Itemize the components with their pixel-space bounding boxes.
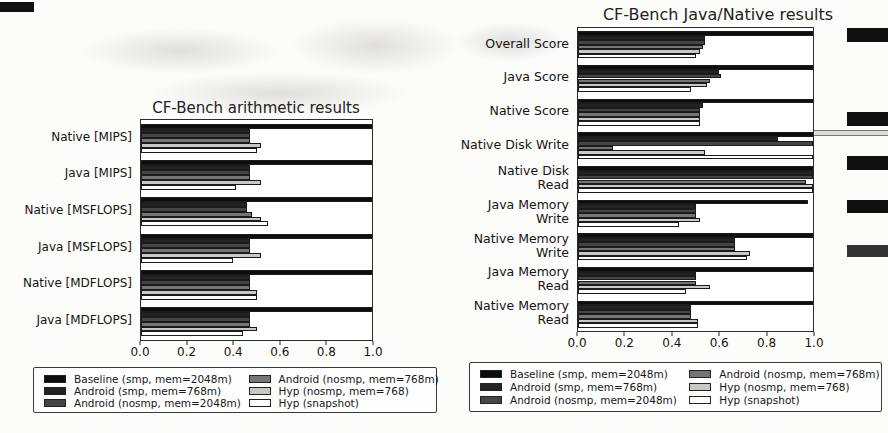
legend-item: Android (smp, mem=768m) <box>44 385 249 397</box>
category-label: Native Disk Write <box>440 128 573 162</box>
category-axis: Overall ScoreJava ScoreNative ScoreNativ… <box>440 27 573 332</box>
category-label: Native Score <box>440 94 573 128</box>
category-label: Java [MIPS] <box>0 156 136 193</box>
bar <box>141 221 268 226</box>
scanned-page: { "legend": { "items": [ {"label": "Base… <box>0 0 888 433</box>
category-label: Native [MIPS] <box>0 119 136 156</box>
legend: Baseline (smp, mem=2048m)Android (smp, m… <box>33 367 437 413</box>
legend-label: Baseline (smp, mem=2048m) <box>74 373 232 385</box>
category-label: Native Memory Read <box>440 296 573 330</box>
legend-label: Android (nosmp, mem=768m) <box>719 368 879 380</box>
legend-item: Android (nosmp, mem=768m) <box>689 368 875 381</box>
legend-item: Hyp (nosmp, mem=768) <box>689 381 875 394</box>
x-tick-label: 1.0 <box>363 345 382 359</box>
x-tick-label: 0.4 <box>662 336 681 350</box>
legend-item: Hyp (nosmp, mem=768) <box>249 385 430 397</box>
legend-item: Baseline (smp, mem=2048m) <box>44 373 249 385</box>
bar <box>141 185 236 190</box>
bar <box>578 289 686 293</box>
legend-label: Android (nosmp, mem=2048m) <box>74 397 241 409</box>
legend-swatch <box>480 383 502 391</box>
x-tick-label: 0.0 <box>130 345 149 359</box>
scan-artifact <box>847 112 888 126</box>
category-label: Java Memory Write <box>440 195 573 229</box>
legend-label: Android (smp, mem=768m) <box>510 381 657 393</box>
category-label: Java Score <box>440 61 573 95</box>
scan-artifact <box>847 156 888 170</box>
bar <box>578 256 747 260</box>
bar <box>578 141 813 145</box>
legend-swatch <box>249 375 271 383</box>
legend-item: Baseline (smp, mem=2048m) <box>480 368 689 381</box>
legend-item: Android (nosmp, mem=2048m) <box>44 397 249 409</box>
legend-label: Android (smp, mem=768m) <box>74 385 221 397</box>
bar <box>578 222 679 226</box>
bar <box>578 323 698 327</box>
scan-artifact <box>847 200 888 213</box>
legend: Baseline (smp, mem=2048m)Android (smp, m… <box>469 362 882 412</box>
legend-item: Android (smp, mem=768m) <box>480 381 689 394</box>
legend-swatch <box>689 370 711 378</box>
legend-swatch <box>480 396 502 404</box>
category-label: Java [MDFLOPS] <box>0 302 136 339</box>
legend-swatch <box>689 396 711 404</box>
category-label: Native Disk Read <box>440 162 573 196</box>
legend-swatch <box>44 399 66 407</box>
bar <box>141 148 257 153</box>
category-label: Java Memory Read <box>440 263 573 297</box>
scan-artifact <box>813 130 888 136</box>
bar <box>578 188 813 192</box>
bar <box>141 331 243 336</box>
legend-label: Hyp (nosmp, mem=768) <box>279 385 409 397</box>
scan-artifact <box>847 28 888 42</box>
bar <box>578 155 813 159</box>
legend-swatch <box>480 370 502 378</box>
x-tick-label: 0.2 <box>615 336 634 350</box>
category-label: Native [MDFLOPS] <box>0 266 136 303</box>
legend-item: Android (nosmp, mem=2048m) <box>480 393 689 406</box>
legend-item: Hyp (snapshot) <box>689 393 875 406</box>
legend-label: Hyp (snapshot) <box>279 397 359 409</box>
legend-label: Baseline (smp, mem=2048m) <box>510 368 668 380</box>
bar <box>141 295 257 300</box>
scan-noise <box>80 28 280 74</box>
x-tick-label: 0.8 <box>317 345 336 359</box>
plot-area <box>577 27 814 332</box>
x-axis: 0.00.20.40.60.81.0 <box>140 341 373 361</box>
category-label: Native Memory Write <box>440 229 573 263</box>
scan-artifact <box>847 245 888 257</box>
x-tick-label: 1.0 <box>804 336 823 350</box>
category-label: Overall Score <box>440 27 573 61</box>
scan-noise <box>290 18 460 74</box>
category-label: Java [MSFLOPS] <box>0 229 136 266</box>
legend-label: Android (nosmp, mem=768m) <box>279 373 439 385</box>
chart-title: CF-Bench arithmetic results <box>130 99 382 117</box>
x-tick-label: 0.2 <box>177 345 196 359</box>
legend-item: Android (nosmp, mem=768m) <box>249 373 430 385</box>
legend-swatch <box>44 375 66 383</box>
bar <box>578 87 691 91</box>
chart-title: CF-Bench Java/Native results <box>556 5 880 24</box>
category-axis: Native [MIPS]Java [MIPS]Native [MSFLOPS]… <box>0 119 136 341</box>
x-axis: 0.00.20.40.60.81.0 <box>577 332 814 352</box>
scan-artifact <box>0 2 34 12</box>
legend-item: Hyp (snapshot) <box>249 397 430 409</box>
x-tick-label: 0.0 <box>567 336 586 350</box>
legend-swatch <box>689 383 711 391</box>
x-tick-label: 0.6 <box>710 336 729 350</box>
x-tick-label: 0.4 <box>224 345 243 359</box>
x-tick-label: 0.8 <box>757 336 776 350</box>
x-tick-label: 0.6 <box>270 345 289 359</box>
bar <box>141 258 233 263</box>
bar <box>578 121 700 125</box>
legend-label: Android (nosmp, mem=2048m) <box>510 394 677 406</box>
legend-swatch <box>44 387 66 395</box>
plot-area <box>140 119 373 341</box>
category-label: Native [MSFLOPS] <box>0 192 136 229</box>
legend-label: Hyp (snapshot) <box>719 394 799 406</box>
legend-swatch <box>249 399 271 407</box>
bar <box>578 54 696 58</box>
legend-label: Hyp (nosmp, mem=768) <box>719 381 849 393</box>
legend-swatch <box>249 387 271 395</box>
